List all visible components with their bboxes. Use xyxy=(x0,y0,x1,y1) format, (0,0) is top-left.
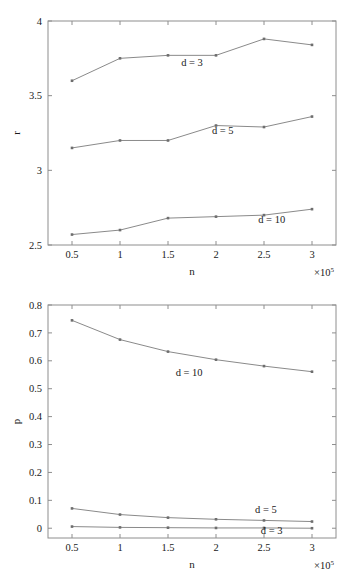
data-marker xyxy=(311,44,314,47)
data-marker xyxy=(167,54,170,57)
series-annotation: d = 3 xyxy=(181,57,203,68)
data-marker xyxy=(263,38,266,41)
data-marker xyxy=(215,358,218,361)
data-marker xyxy=(119,229,122,232)
data-marker xyxy=(215,54,218,57)
x-tick-label: 1.5 xyxy=(161,542,174,553)
data-marker xyxy=(311,527,314,530)
x-tick-label: 2.5 xyxy=(257,542,270,553)
plot-frame xyxy=(48,305,336,538)
data-marker xyxy=(311,520,314,523)
data-marker xyxy=(311,370,314,373)
x-tick-label: 0.5 xyxy=(65,542,78,553)
data-marker xyxy=(215,518,218,521)
x-axis-multiplier: ×105 xyxy=(314,266,334,278)
data-marker xyxy=(311,115,314,118)
x-axis-title: n xyxy=(189,558,195,570)
data-marker xyxy=(71,507,74,510)
y-tick-label: 0.2 xyxy=(29,467,42,478)
y-tick-label: 0.6 xyxy=(29,355,42,366)
data-line-d5 xyxy=(72,117,312,148)
x-tick-label: 0.5 xyxy=(65,249,78,260)
data-marker xyxy=(167,350,170,353)
data-marker xyxy=(215,527,218,530)
data-marker xyxy=(167,139,170,142)
data-marker xyxy=(119,526,122,529)
data-marker xyxy=(71,525,74,528)
series-annotation: d = 5 xyxy=(255,504,277,515)
data-marker xyxy=(71,319,74,322)
x-axis-title: n xyxy=(189,265,195,277)
y-axis-title: r xyxy=(10,131,22,135)
x-multiplier-base: ×105 xyxy=(314,559,334,571)
y-tick-label: 3.5 xyxy=(29,90,42,101)
y-tick-label: 0.4 xyxy=(29,411,43,422)
x-tick-label: 2.5 xyxy=(257,249,270,260)
series-annotation: d = 10 xyxy=(176,367,203,378)
x-tick-label: 3 xyxy=(309,542,314,553)
y-tick-label: 0.3 xyxy=(29,439,42,450)
series-annotation: d = 10 xyxy=(258,214,285,225)
x-tick-label: 3 xyxy=(309,249,314,260)
y-tick-label: 2.5 xyxy=(29,240,42,251)
x-multiplier-exponent: 5 xyxy=(331,559,335,567)
data-marker xyxy=(119,338,122,341)
y-tick-label: 3 xyxy=(37,165,42,176)
data-marker xyxy=(119,513,122,516)
data-marker xyxy=(71,233,74,236)
x-multiplier-exponent: 5 xyxy=(331,266,335,274)
x-tick-label: 1.5 xyxy=(161,249,174,260)
data-marker xyxy=(167,526,170,529)
chart-p-canvas: 0.511.522.5300.10.20.30.40.50.60.70.8np×… xyxy=(0,293,354,585)
x-tick-label: 1 xyxy=(117,249,122,260)
chart-r-canvas: 0.511.522.532.533.54nr×105d = 3d = 5d = … xyxy=(0,0,354,293)
y-tick-label: 0.8 xyxy=(29,300,42,311)
data-line-d10 xyxy=(72,320,312,371)
x-tick-label: 2 xyxy=(213,542,218,553)
chart-r-vs-n: 0.511.522.532.533.54nr×105d = 3d = 5d = … xyxy=(0,0,354,293)
data-marker xyxy=(71,147,74,150)
x-tick-label: 2 xyxy=(213,249,218,260)
data-marker xyxy=(119,57,122,60)
series-annotation: d = 3 xyxy=(261,525,283,536)
data-marker xyxy=(311,208,314,211)
y-tick-label: 0.5 xyxy=(29,383,42,394)
y-tick-label: 0 xyxy=(37,523,42,534)
data-marker xyxy=(215,215,218,218)
data-marker xyxy=(263,365,266,368)
y-tick-label: 4 xyxy=(37,16,43,27)
data-marker xyxy=(119,139,122,142)
x-tick-label: 1 xyxy=(117,542,122,553)
data-marker xyxy=(167,516,170,519)
data-marker xyxy=(263,126,266,129)
y-tick-label: 0.1 xyxy=(29,495,42,506)
x-multiplier-base: ×105 xyxy=(314,266,334,278)
data-marker xyxy=(71,79,74,82)
y-tick-label: 0.7 xyxy=(29,328,42,339)
series-annotation: d = 5 xyxy=(212,125,234,136)
x-axis-multiplier: ×105 xyxy=(314,559,334,571)
chart-p-vs-n: 0.511.522.5300.10.20.30.40.50.60.70.8np×… xyxy=(0,293,354,585)
data-marker xyxy=(263,519,266,522)
y-axis-title: p xyxy=(10,418,22,424)
data-marker xyxy=(167,217,170,220)
